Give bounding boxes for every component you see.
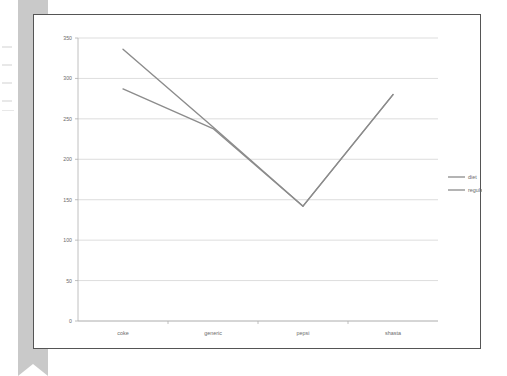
series-line-diet bbox=[123, 49, 393, 206]
y-tick-label: 350 bbox=[63, 35, 72, 41]
y-tick-label: 0 bbox=[69, 318, 72, 324]
y-axis-tick-labels: 050100150200250300350 bbox=[63, 35, 72, 324]
data-series-lines bbox=[123, 49, 393, 206]
gridlines bbox=[78, 38, 438, 321]
x-axis-tick-marks bbox=[168, 321, 348, 324]
chart-frame: 050100150200250300350 cokegenericpepsish… bbox=[33, 14, 481, 349]
x-axis-tick-labels: cokegenericpepsishasta bbox=[117, 330, 401, 336]
x-tick-label: pepsi bbox=[297, 330, 310, 336]
y-axis-tick-marks bbox=[75, 38, 78, 321]
chart-legend: dietregular bbox=[448, 174, 482, 193]
x-tick-label: generic bbox=[204, 330, 222, 336]
legend-label-regular: regular bbox=[468, 187, 482, 193]
y-tick-label: 200 bbox=[63, 156, 72, 162]
y-tick-label: 250 bbox=[63, 116, 72, 122]
edge-artifact bbox=[2, 110, 14, 111]
x-tick-label: coke bbox=[117, 330, 128, 336]
x-tick-label: shasta bbox=[385, 330, 401, 336]
edge-artifact bbox=[2, 46, 12, 48]
screenshot-page: 050100150200250300350 cokegenericpepsish… bbox=[0, 0, 507, 376]
series-line-regular bbox=[123, 89, 393, 206]
edge-artifact bbox=[2, 100, 12, 102]
legend-label-diet: diet bbox=[468, 174, 477, 180]
edge-artifact bbox=[2, 64, 12, 66]
sidebar-band-tip bbox=[18, 364, 48, 376]
line-chart: 050100150200250300350 cokegenericpepsish… bbox=[34, 15, 482, 350]
y-tick-label: 150 bbox=[63, 197, 72, 203]
y-tick-label: 100 bbox=[63, 237, 72, 243]
y-tick-label: 300 bbox=[63, 75, 72, 81]
edge-artifact bbox=[2, 82, 12, 84]
y-tick-label: 50 bbox=[66, 278, 72, 284]
